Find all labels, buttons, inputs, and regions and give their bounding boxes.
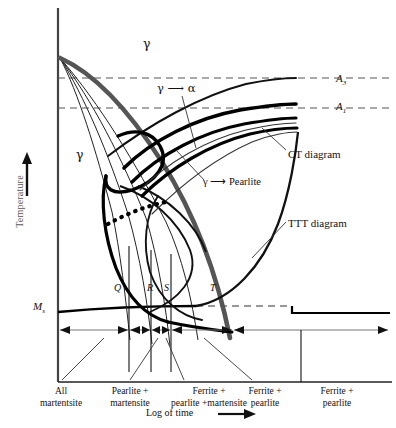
arrowhead-l2 xyxy=(130,326,140,334)
ms-subscript: s xyxy=(42,307,45,315)
leader-ct xyxy=(262,128,286,150)
leader-3 xyxy=(166,338,184,380)
ttt-curve-right-branch xyxy=(196,132,298,306)
cooling-label-t: T xyxy=(210,282,216,293)
dotted-transition-arc xyxy=(108,202,166,224)
y-axis-label: Temperature xyxy=(14,157,25,247)
gamma-to-pearlite-label: γ ⟶ Pearlite xyxy=(203,175,261,187)
gamma-label-top: γ xyxy=(143,36,150,51)
ct-curves xyxy=(103,78,297,332)
ct-curve-a3 xyxy=(108,78,296,156)
region-caption-5-line1: Ferrite + xyxy=(304,386,370,398)
a3-letter: A xyxy=(336,72,343,84)
a3-label: A3 xyxy=(336,72,346,87)
arrowhead-l5 xyxy=(234,326,244,334)
ttt-cct-diagram: Temperature γ γ γ ⟶ α γ ⟶ Pearlite CT di… xyxy=(0,0,396,428)
ttt-diagram-label: TTT diagram xyxy=(288,217,347,229)
leader-1 xyxy=(62,338,104,380)
region-dividers xyxy=(129,246,301,382)
cooling-label-r: R xyxy=(147,282,153,293)
arrowhead-r2 xyxy=(142,326,150,334)
x-axis-arrow xyxy=(218,409,256,419)
region-caption-4: Ferrite + pearlite xyxy=(232,386,298,409)
arrowhead-r1 xyxy=(118,326,128,334)
ct-curve-thin-inner-2 xyxy=(152,132,297,214)
leader-ttt xyxy=(252,222,286,258)
axis-group xyxy=(58,8,392,382)
a3-subscript: 3 xyxy=(343,79,347,87)
ms-letter: M xyxy=(33,300,42,312)
leader-2 xyxy=(130,338,158,380)
arrowhead-r5 xyxy=(378,326,388,334)
region-caption-4-line2: pearlite xyxy=(232,398,298,410)
a1-subscript: 1 xyxy=(343,107,347,115)
cooling-label-q: Q xyxy=(114,282,121,293)
ct-curve-left-descend xyxy=(103,176,168,322)
arrowhead-l4 xyxy=(172,326,182,334)
ct-curve-inner-descend xyxy=(146,196,202,320)
arrowhead-l1 xyxy=(60,326,70,334)
diagram-canvas xyxy=(0,0,396,428)
region-caption-5-line2: pearlite xyxy=(304,398,370,410)
caption-leader-lines xyxy=(62,338,252,380)
ct-diagram-label: CT diagram xyxy=(288,148,341,160)
arrowhead-l3 xyxy=(152,326,160,334)
leader-4 xyxy=(204,338,252,380)
cooling-curve-r xyxy=(60,58,152,344)
x-axis-label: Log of time xyxy=(146,407,193,418)
dotted-arc-path xyxy=(108,202,166,224)
region-caption-5: Ferrite + pearlite xyxy=(304,386,370,409)
ms-label: Ms xyxy=(33,300,45,315)
region-caption-4-line1: Ferrite + xyxy=(232,386,298,398)
cooling-label-s: S xyxy=(164,282,169,293)
a1-label: A1 xyxy=(336,100,346,115)
ms-line-right-step xyxy=(292,306,390,313)
a1-letter: A xyxy=(336,100,343,112)
gamma-label-left: γ xyxy=(76,147,83,162)
gamma-to-alpha-label: γ ⟶ α xyxy=(157,81,195,95)
cooling-curve-q xyxy=(60,58,130,340)
